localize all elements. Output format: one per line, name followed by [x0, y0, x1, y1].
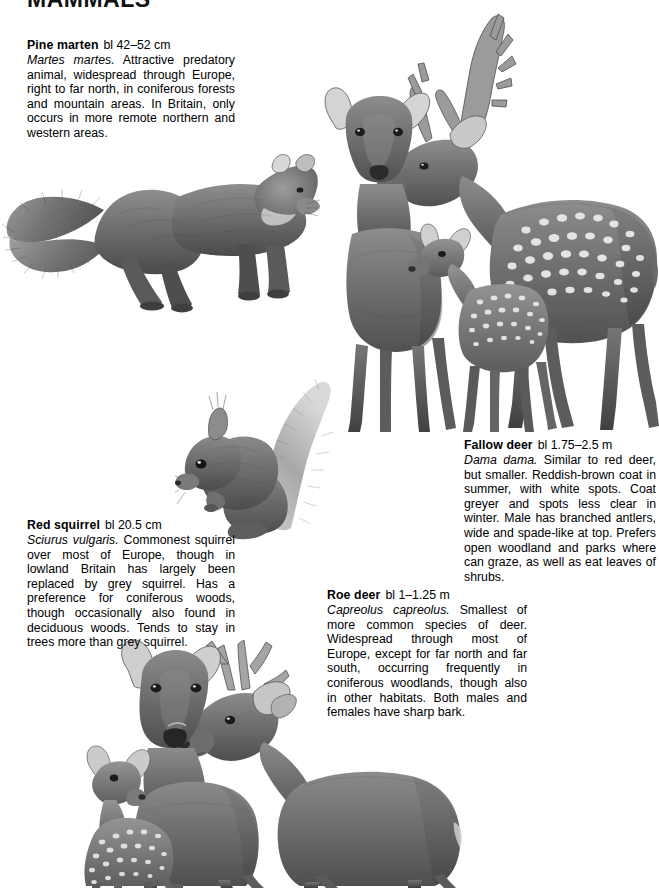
entry-fallow-deer: Fallow deerbl 1.75–2.5 m Dama dama. Simi…	[464, 438, 656, 584]
common-name: Pine marten	[27, 38, 99, 52]
entry-heading: Roe deerbl 1–1.25 m	[327, 588, 527, 603]
common-name: Fallow deer	[464, 438, 533, 452]
description-text: Smallest of more common species of deer.…	[327, 603, 527, 719]
entry-heading: Red squirrelbl 20.5 cm	[27, 518, 235, 533]
scientific-name: Capreolus capreolus.	[327, 603, 450, 617]
entry-pine-marten: Pine martenbl 42–52 cm Martes martes. At…	[27, 38, 235, 141]
scientific-name: Dama dama.	[464, 453, 537, 467]
common-name: Red squirrel	[27, 518, 100, 532]
field-guide-page: MAMMALS	[0, 0, 659, 888]
common-name: Roe deer	[327, 588, 380, 602]
entry-roe-deer: Roe deerbl 1–1.25 m Capreolus capreolus.…	[327, 588, 527, 720]
entry-red-squirrel: Red squirrelbl 20.5 cm Sciurus vulgaris.…	[27, 518, 235, 650]
scientific-name: Sciurus vulgaris.	[27, 533, 119, 547]
entry-heading: Fallow deerbl 1.75–2.5 m	[464, 438, 656, 453]
entry-description: Martes martes. Attractive predatory anim…	[27, 53, 235, 141]
measurement: bl 1.75–2.5 m	[538, 438, 613, 452]
entry-heading: Pine martenbl 42–52 cm	[27, 38, 235, 53]
running-head: MAMMALS	[27, 0, 151, 13]
fallow-deer-illustration	[312, 8, 659, 433]
description-text: Similar to red deer, but smaller. Reddis…	[464, 453, 656, 584]
entry-description: Dama dama. Similar to red deer, but smal…	[464, 453, 656, 584]
pine-marten-illustration	[0, 136, 320, 326]
measurement: bl 1–1.25 m	[385, 588, 449, 602]
description-text: Commonest squirrel over most of Europe, …	[27, 533, 235, 649]
measurement: bl 20.5 cm	[105, 518, 162, 532]
entry-description: Capreolus capreolus. Smallest of more co…	[327, 603, 527, 720]
scientific-name: Martes martes.	[27, 53, 115, 67]
entry-description: Sciurus vulgaris. Commonest squirrel ove…	[27, 533, 235, 650]
measurement: bl 42–52 cm	[104, 38, 171, 52]
